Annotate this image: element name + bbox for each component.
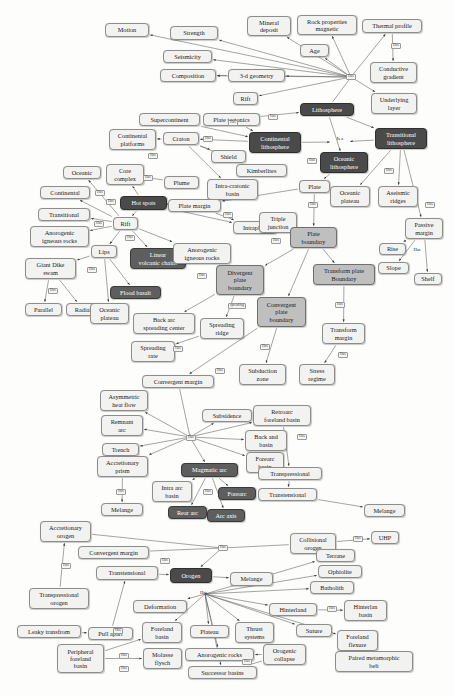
concept-node-conv_margin_mid[interactable]: Convergent margin [142, 375, 214, 388]
concept-node-rear_arc[interactable]: Rear arc [168, 506, 207, 519]
concept-node-foreland_basin[interactable]: Foreland basin [142, 622, 182, 643]
concept-node-oceanic_lith[interactable]: Oceanic lithosphere [320, 152, 368, 173]
concept-node-composition[interactable]: Composition [160, 69, 216, 82]
concept-node-subsidence[interactable]: Subsidence [202, 409, 252, 422]
concept-node-foreland_flexure[interactable]: Foreland flexure [337, 630, 378, 651]
concept-node-orogen[interactable]: Orogen [170, 568, 212, 583]
concept-node-subduction_zone[interactable]: Subduction zone [239, 364, 286, 385]
concept-node-continental[interactable]: Continental [40, 186, 90, 199]
concept-node-mineral_deposit[interactable]: Mineral deposit [247, 16, 291, 36]
concept-node-remnant_arc[interactable]: Remnant arc [101, 415, 143, 436]
concept-node-rise[interactable]: Rise [379, 243, 406, 255]
concept-node-oceanic_plateau_t[interactable]: Oceanic plateau [330, 186, 370, 207]
concept-node-retroarc[interactable]: Retroarc foreland basin [253, 405, 311, 426]
concept-node-oceanic_plateau_b[interactable]: Oceanic plateau [90, 303, 129, 324]
concept-node-deformation[interactable]: Deformation [133, 600, 187, 613]
concept-node-plate[interactable]: Plate [299, 180, 330, 193]
concept-node-conv_margin_low[interactable]: Convergent margin [78, 546, 149, 559]
concept-node-melange_low[interactable]: Melange [230, 572, 273, 586]
concept-node-seismicity[interactable]: Seismicity [163, 50, 212, 63]
concept-node-accretionary_orog[interactable]: Accretionary orogen [40, 521, 91, 542]
concept-node-terrane[interactable]: Terrane [316, 549, 355, 562]
concept-node-core_complex[interactable]: Core complex [106, 164, 144, 185]
concept-node-transform_margin[interactable]: Transform margin [322, 323, 365, 344]
concept-node-intra_arc_basin[interactable]: Intra arc basin [152, 481, 192, 502]
concept-node-age[interactable]: Age [300, 44, 329, 57]
concept-node-cont_lithosphere[interactable]: Continental lithosphere [249, 132, 301, 153]
concept-node-slope[interactable]: Slope [378, 262, 409, 274]
concept-node-plume[interactable]: Plume [164, 176, 199, 189]
concept-node-orogenic_collapse[interactable]: Orogenic collapse [263, 644, 306, 665]
concept-node-leaky_transform[interactable]: Leaky transfrom [17, 625, 81, 638]
concept-node-asym_heat_flow[interactable]: Asymmetric heat flow [100, 390, 148, 411]
concept-node-anorogenic_r[interactable]: Anorogenic igneous rocks [173, 243, 231, 264]
concept-node-arc_axis[interactable]: Arc axis [207, 509, 245, 522]
concept-node-lithosphere[interactable]: Lithosphere [300, 103, 354, 116]
concept-node-paired_metamorphic[interactable]: Paired metamorphic belt [335, 651, 413, 672]
concept-node-melange_mid[interactable]: Melange [101, 503, 143, 516]
concept-node-transtensional_r[interactable]: Transtensional [258, 488, 317, 501]
concept-node-3d_geometry[interactable]: 3-d geometry [228, 69, 285, 82]
concept-node-hot_spots[interactable]: Hot spots [120, 196, 167, 210]
concept-node-flood_basalt[interactable]: Flood basalt [110, 286, 161, 299]
concept-node-thermal_profile[interactable]: Thermal profile [362, 19, 422, 33]
concept-node-parallel[interactable]: Parallel [25, 303, 62, 316]
concept-node-backarc_center[interactable]: Back arc spreading center [133, 313, 195, 334]
concept-node-trans_lithosphere[interactable]: Transitional lithosphere [375, 128, 427, 149]
concept-node-stress_regime[interactable]: Stress regime [299, 364, 335, 385]
concept-node-lips[interactable]: Lips [91, 245, 117, 258]
concept-node-plate_boundary[interactable]: Plate boundary [290, 227, 337, 248]
concept-node-has_label_2[interactable]: Has [196, 591, 211, 596]
concept-node-has_label[interactable]: Has [409, 248, 425, 253]
concept-node-peripheral_fb[interactable]: Peripheral foreland basin [57, 644, 104, 673]
concept-node-strength[interactable]: Strength [170, 26, 218, 40]
concept-node-rift_top[interactable]: Rift [233, 92, 258, 105]
concept-node-is_a_label[interactable]: Is a [331, 137, 349, 142]
concept-node-trench[interactable]: Trench [102, 443, 139, 456]
concept-node-kimberlites[interactable]: Kimberlites [236, 164, 287, 177]
concept-node-motion[interactable]: Motion [105, 23, 149, 37]
concept-node-successor_basins[interactable]: Successor basins [188, 666, 257, 679]
concept-node-batholith[interactable]: Batholith [310, 581, 354, 594]
concept-node-transpressional[interactable]: Transpressional [258, 467, 322, 480]
concept-node-spreading_rate[interactable]: Spreading rate [131, 341, 175, 362]
concept-node-craton[interactable]: Craton [163, 132, 199, 145]
concept-node-ophiolite[interactable]: Ophiolite [318, 565, 362, 578]
concept-node-transtensional_l[interactable]: Transtensional [96, 566, 158, 580]
concept-node-underlying_layer[interactable]: Underlying layer [371, 93, 417, 114]
concept-node-molasse_flysch[interactable]: Molasse flysch [143, 648, 182, 669]
concept-node-plate_margin[interactable]: Plate margin [168, 199, 221, 212]
concept-node-supercontinent[interactable]: Supercontinent [139, 113, 200, 126]
concept-node-shelf[interactable]: Shelf [414, 273, 442, 285]
concept-node-aseismic_ridges[interactable]: Aseismic ridges [378, 186, 418, 207]
concept-node-suture[interactable]: Suture [296, 624, 332, 637]
concept-node-transitional[interactable]: Transitional [38, 208, 90, 221]
concept-node-pull_apart[interactable]: Pull apart [88, 627, 133, 640]
concept-node-giant_dike[interactable]: Giant Dike swam [25, 258, 76, 279]
concept-node-melange_r2[interactable]: Melange [364, 504, 405, 517]
concept-node-spreading_ridge[interactable]: Spreading ridge [200, 318, 244, 339]
concept-node-hinterland[interactable]: Hinterland [269, 603, 317, 616]
concept-node-accretionary_prism[interactable]: Accretionary prism [97, 456, 148, 477]
concept-node-transpressional_o[interactable]: Transpressional orogen [29, 588, 89, 609]
concept-node-conductive_grad[interactable]: Conductive gradient [370, 62, 417, 83]
concept-node-hinterland_basin[interactable]: Hinterlan basin [344, 600, 387, 621]
concept-node-plateau[interactable]: Plateau [190, 625, 229, 638]
concept-node-passive_margin[interactable]: Passive margin [405, 218, 443, 239]
concept-node-cont_platforms[interactable]: Continental platforms [109, 129, 156, 150]
concept-node-divergent_pb[interactable]: Divergent plate boundary [216, 265, 264, 295]
concept-node-transform_pb[interactable]: Transform plate Boundary [313, 264, 375, 285]
concept-node-thrust_systems[interactable]: Thrust systems [235, 622, 274, 643]
concept-node-convergent_pb[interactable]: Convergent plate boundary [257, 297, 306, 327]
concept-node-shield[interactable]: Shield [211, 150, 246, 163]
concept-node-forearc[interactable]: Forearc [218, 487, 256, 500]
concept-node-rift_mid[interactable]: Rift [113, 217, 138, 230]
concept-node-anorogenic_l[interactable]: Anorogenic igneous rocks [30, 226, 89, 247]
concept-node-uhp[interactable]: UHP [371, 531, 399, 544]
concept-node-intracratonic[interactable]: Intra-cratonic basin [207, 179, 258, 200]
concept-node-magmatic_arc[interactable]: Magmatic arc [181, 463, 238, 477]
concept-node-rock_properties[interactable]: Rock properties magnetic [297, 15, 357, 35]
concept-node-back_and_basin[interactable]: Back and basin [245, 430, 287, 451]
link-label-ll_rifthub: Has [125, 235, 135, 241]
concept-node-oceanic[interactable]: Oceanic [63, 166, 101, 179]
